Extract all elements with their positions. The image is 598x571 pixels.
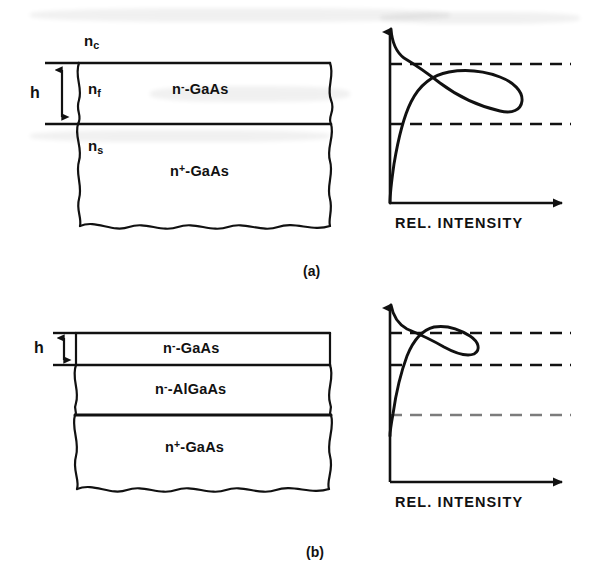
layer-label-b-substrate: n+-GaAs	[165, 440, 224, 455]
layer-label-a-substrate: n+-GaAs	[170, 164, 229, 179]
layer-label-b-gaas-top: n--GaAs	[163, 341, 219, 356]
thickness-label-b: h	[34, 340, 44, 356]
index-label-substrate-a: ns	[88, 138, 103, 156]
panel-caption-b: (b)	[306, 545, 324, 559]
index-label-film-a: nf	[88, 81, 101, 99]
panel-caption-a: (a)	[303, 264, 320, 278]
index-label-cladding-a: nc	[84, 33, 99, 51]
figure-page: nc nf ns h n--GaAs n+-GaAs REL. INTENSIT…	[0, 0, 598, 571]
layer-label-a-film: n--GaAs	[172, 82, 228, 97]
x-axis-label-a: REL. INTENSITY	[395, 216, 523, 231]
layer-label-b-algaas: n--AlGaAs	[155, 382, 226, 397]
x-axis-label-b: REL. INTENSITY	[395, 495, 523, 510]
thickness-label-a: h	[30, 85, 40, 101]
